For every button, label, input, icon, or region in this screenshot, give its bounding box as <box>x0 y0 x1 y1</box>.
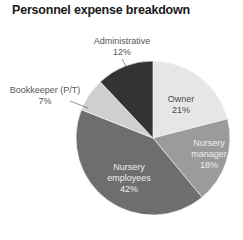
label-employees-value: 42% <box>107 184 151 195</box>
label-owner-name: Owner <box>168 94 195 105</box>
label-administrative-name: Administrative <box>94 36 151 47</box>
label-employees-name-1: Nursery <box>107 162 151 173</box>
label-bookkeeper-name: Bookkeeper (P/T) <box>10 85 81 96</box>
label-manager-name-1: Nursery <box>191 138 227 149</box>
label-manager-name-2: manager <box>191 149 227 160</box>
label-nursery-manager: Nursery manager 18% <box>191 138 227 171</box>
leader-line-administrative <box>122 59 126 66</box>
label-bookkeeper: Bookkeeper (P/T) 7% <box>10 85 81 107</box>
label-bookkeeper-value: 7% <box>10 96 81 107</box>
label-owner-value: 21% <box>168 105 195 116</box>
label-administrative: Administrative 12% <box>94 36 151 58</box>
label-administrative-value: 12% <box>94 47 151 58</box>
label-employees-name-2: employees <box>107 173 151 184</box>
label-manager-value: 18% <box>191 160 227 171</box>
label-owner: Owner 21% <box>168 94 195 116</box>
label-nursery-employees: Nursery employees 42% <box>107 162 151 195</box>
